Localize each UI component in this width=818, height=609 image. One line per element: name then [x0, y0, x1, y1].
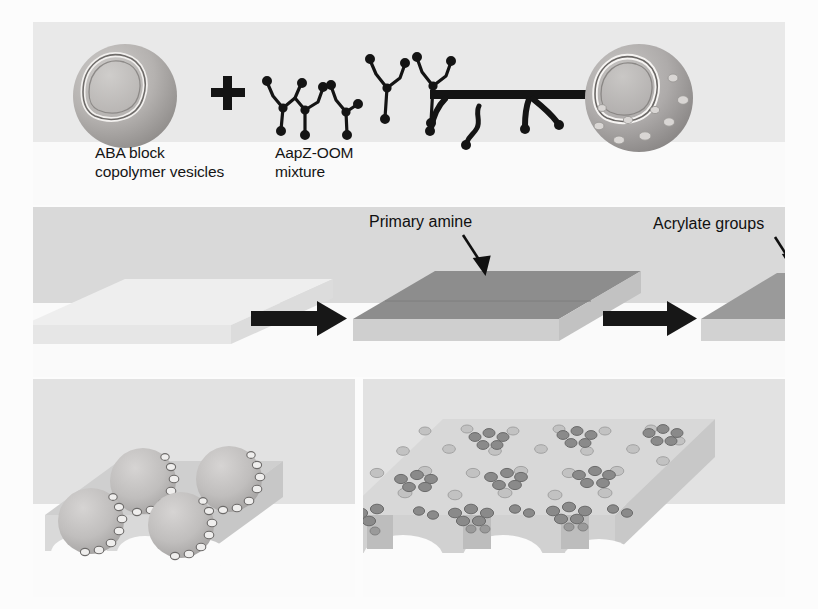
vesicle-caption-line1: ABA block — [95, 144, 165, 162]
panel-bl-white-base — [33, 504, 355, 597]
vesicle-deposition-panel — [33, 379, 355, 597]
reaction-arrow-icon — [425, 84, 616, 150]
primary-amine-label: Primary amine — [369, 213, 472, 231]
aapz-oom-molecules-icon — [264, 54, 455, 139]
membrane-small-pores — [363, 425, 685, 500]
substrate-functionalization-panel: Primary amine Acrylate groups — [33, 207, 785, 377]
porous-vesicle-icon — [585, 44, 693, 152]
mixture-caption-line2: mixture — [275, 163, 325, 181]
vesicle-assembly-panel: ABA block copolymer vesicles AapZ-OOM mi… — [33, 22, 785, 205]
primary-amine-arrow-icon — [463, 235, 489, 273]
vesicle-caption-line2: copolymer vesicles — [95, 163, 224, 181]
panel-br-white-base — [363, 504, 785, 597]
plain-vesicle-icon — [73, 44, 177, 148]
nanoporous-membrane-panel — [363, 379, 785, 597]
mixture-caption-line1: AapZ-OOM — [275, 144, 353, 162]
plus-icon — [211, 76, 245, 110]
acrylate-groups-label: Acrylate groups — [653, 215, 764, 233]
figure-root: ABA block copolymer vesicles AapZ-OOM mi… — [0, 0, 818, 609]
acrylate-groups-arrow-icon — [775, 237, 785, 269]
panel-mid-white-base — [33, 303, 785, 377]
